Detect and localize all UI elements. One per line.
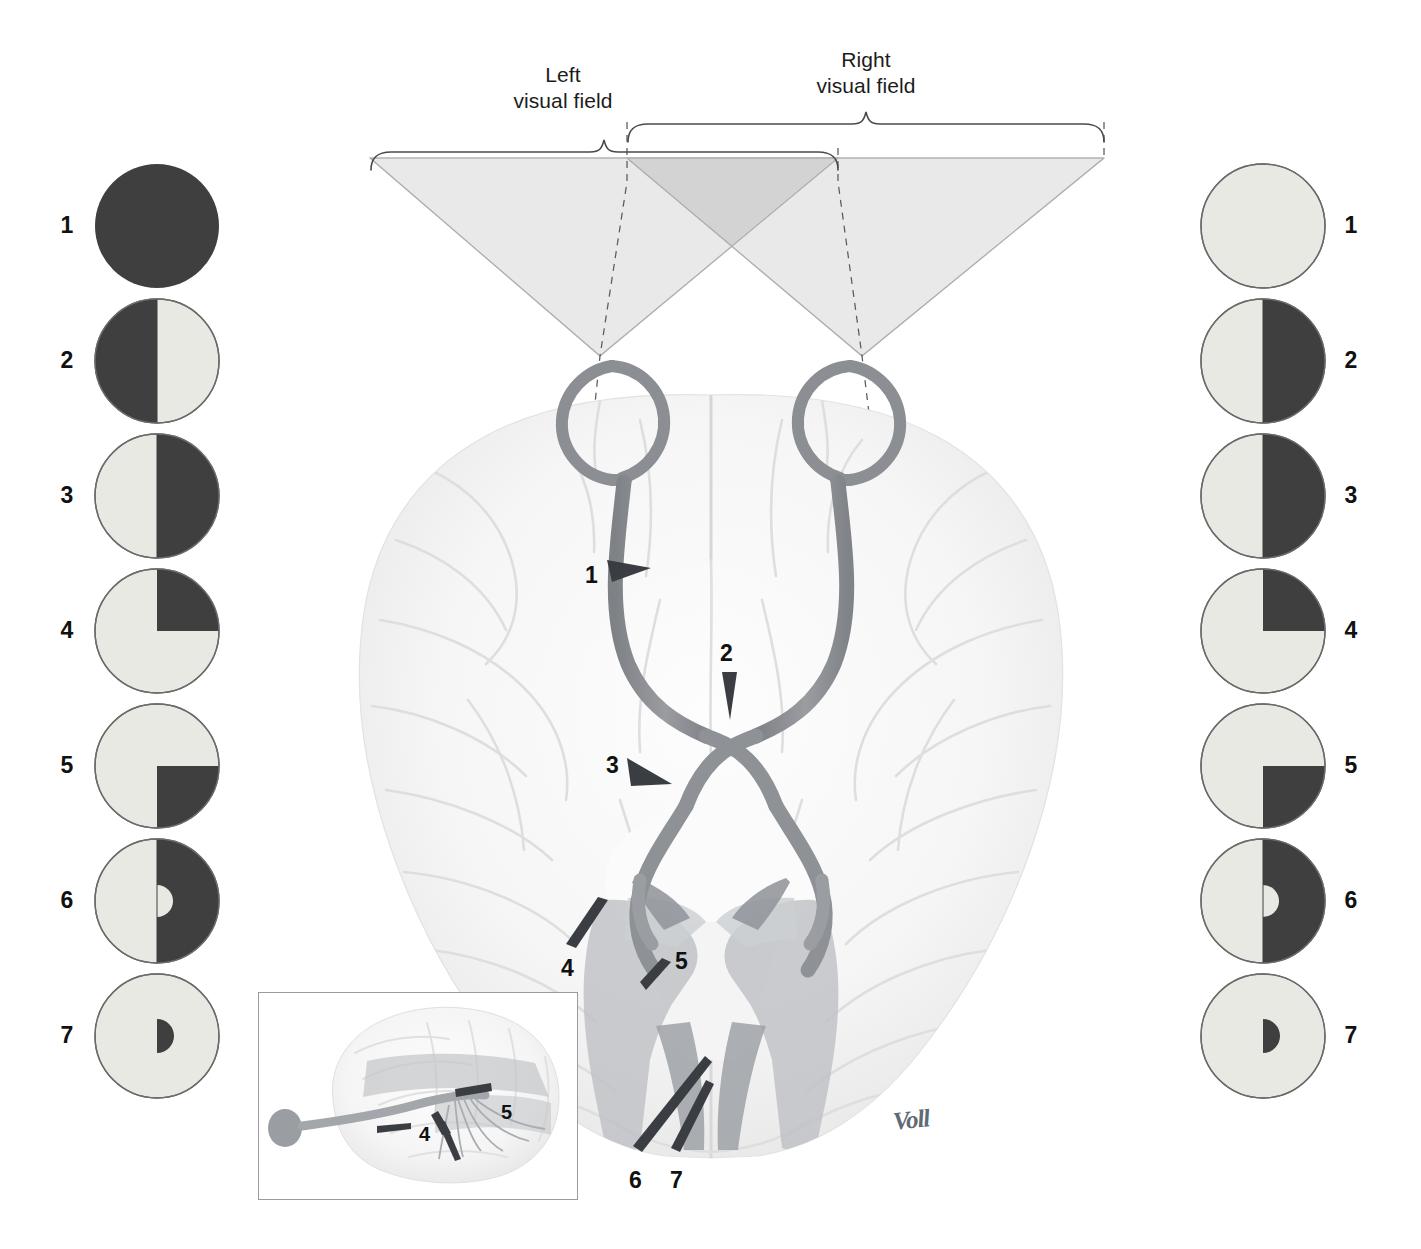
right-eye-field-number-7: 7 <box>1336 1022 1366 1049</box>
right-eye-field-circle-1 <box>1201 164 1325 288</box>
right-eye-field-number-5: 5 <box>1336 752 1366 779</box>
right-eye-field-number-1: 1 <box>1336 212 1366 239</box>
deficit-right-half <box>1263 299 1325 423</box>
figure-canvas: Left visual field Right visual field 1 2… <box>0 0 1421 1249</box>
right-eye-field-number-6: 6 <box>1336 887 1366 914</box>
deficit-lower-right-quadrant <box>1263 766 1325 828</box>
right-eye-field-circle-6 <box>1201 839 1325 963</box>
right-eye-field-circle-4 <box>1201 569 1325 693</box>
right-eye-field-number-4: 4 <box>1336 617 1366 644</box>
deficit-right-half <box>1263 434 1325 558</box>
right-eye-field-circle-5 <box>1201 704 1325 828</box>
right-field-column <box>0 0 1421 1249</box>
right-eye-field-circle-3 <box>1201 434 1325 558</box>
deficit-upper-right-quadrant <box>1263 569 1325 631</box>
right-eye-field-circle-7 <box>1201 974 1325 1098</box>
right-eye-field-circle-2 <box>1201 299 1325 423</box>
right-eye-field-number-2: 2 <box>1336 347 1366 374</box>
right-eye-field-number-3: 3 <box>1336 482 1366 509</box>
